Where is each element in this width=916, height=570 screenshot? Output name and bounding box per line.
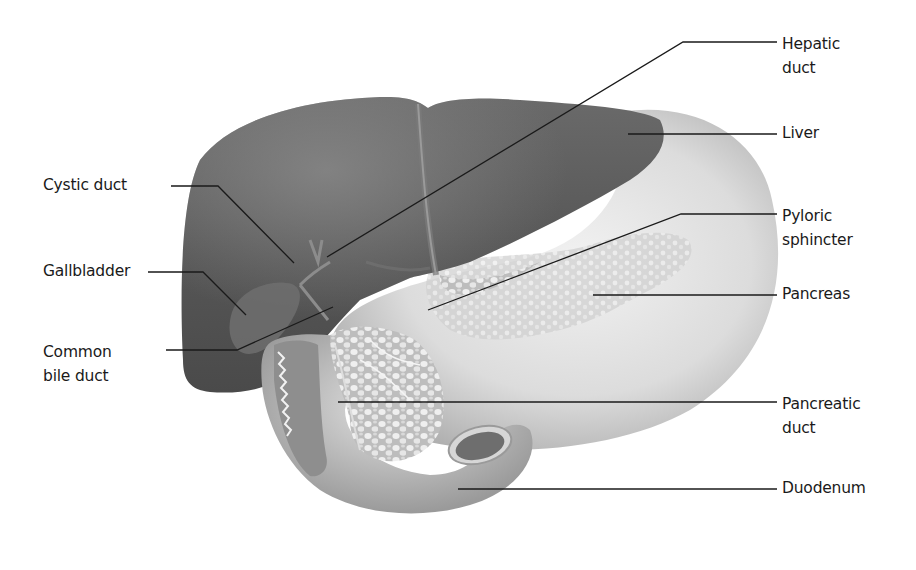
label-duodenum: Duodenum: [782, 479, 866, 498]
label-text: Pancreatic: [782, 392, 860, 416]
label-text: sphincter: [782, 228, 853, 252]
anatomy-illustration: [0, 0, 916, 570]
label-hepatic-duct: Hepatic duct: [782, 32, 840, 80]
label-text: Liver: [782, 124, 819, 143]
label-pancreatic-duct: Pancreatic duct: [782, 392, 860, 440]
label-text: Cystic duct: [43, 176, 127, 195]
label-text: Hepatic: [782, 32, 840, 56]
label-text: Gallbladder: [43, 262, 130, 281]
label-text: duct: [782, 56, 840, 80]
label-common-bile-duct: Common bile duct: [43, 340, 112, 388]
label-text: Common: [43, 340, 112, 364]
label-liver: Liver: [782, 124, 819, 143]
label-pyloric-sphincter: Pyloric sphincter: [782, 204, 853, 252]
label-text: duct: [782, 416, 860, 440]
label-text: Pyloric: [782, 204, 853, 228]
label-cystic-duct: Cystic duct: [43, 176, 127, 195]
label-text: Pancreas: [782, 285, 850, 304]
label-pancreas: Pancreas: [782, 285, 850, 304]
label-gallbladder: Gallbladder: [43, 262, 130, 281]
label-text: Duodenum: [782, 479, 866, 498]
label-text: bile duct: [43, 364, 112, 388]
